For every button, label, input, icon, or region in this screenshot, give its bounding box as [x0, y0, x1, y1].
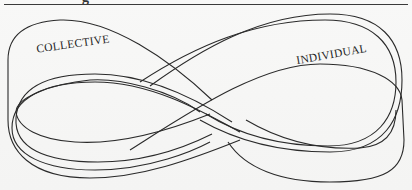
mobius-strip-diagram: COLLECTIVE INDIVIDUAL [0, 0, 412, 190]
right-band-edge-2 [140, 20, 396, 146]
right-lower-edge [246, 110, 396, 148]
page: g COLLECTIVE INDIVIDUAL [0, 0, 412, 190]
right-band-edge-1 [150, 14, 402, 152]
label-collective: COLLECTIVE [35, 33, 110, 55]
label-individual: INDIVIDUAL [295, 42, 367, 66]
left-band-edge-1 [12, 82, 240, 170]
left-inner-edge [16, 80, 210, 143]
